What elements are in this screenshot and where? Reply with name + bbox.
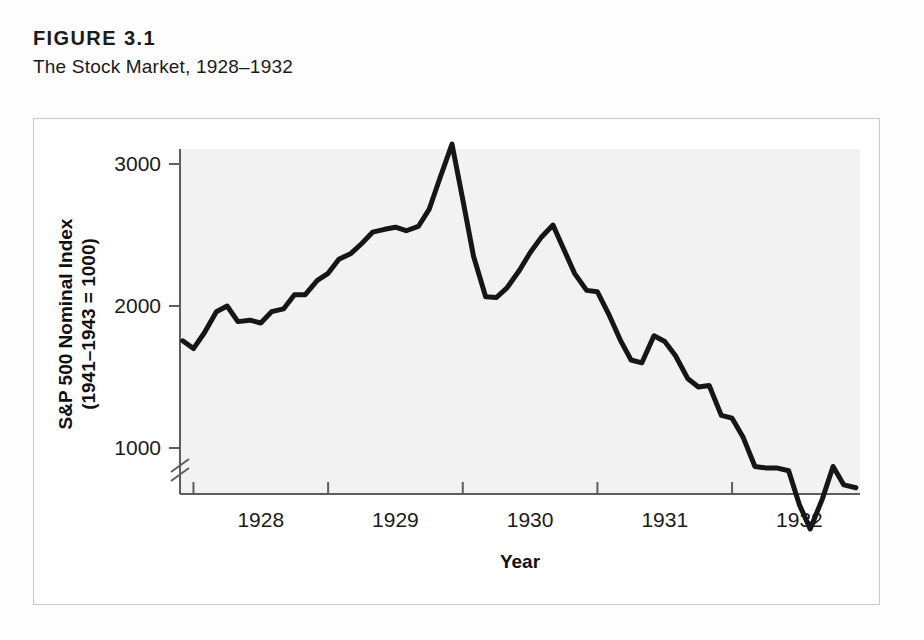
y-axis-title-line1: S&P 500 Nominal Index — [55, 218, 76, 429]
figure-header: FIGURE 3.1 The Stock Market, 1928–1932 — [33, 26, 733, 80]
y-axis-title-line2: (1941–1943 = 1000) — [78, 238, 99, 410]
figure-subtitle: The Stock Market, 1928–1932 — [33, 54, 733, 80]
x-axis-title: Year — [500, 551, 541, 572]
x-tick-label: 1931 — [641, 508, 688, 531]
plot-frame: 100020003000 19281929193019311932 S&P 50… — [33, 118, 880, 605]
x-tick-label: 1929 — [372, 508, 419, 531]
plot-background — [180, 149, 860, 494]
x-tick-label: 1930 — [507, 508, 554, 531]
line-chart: 100020003000 19281929193019311932 S&P 50… — [34, 119, 879, 604]
y-axis-ticks: 100020003000 — [114, 152, 180, 459]
y-axis-title: S&P 500 Nominal Index (1941–1943 = 1000) — [55, 218, 99, 429]
figure-number: FIGURE 3.1 — [33, 26, 733, 51]
y-tick-label: 2000 — [114, 294, 161, 317]
y-tick-label: 3000 — [114, 152, 161, 175]
figure-container: FIGURE 3.1 The Stock Market, 1928–1932 1… — [0, 0, 924, 640]
y-tick-label: 1000 — [114, 436, 161, 459]
x-tick-label: 1928 — [237, 508, 284, 531]
